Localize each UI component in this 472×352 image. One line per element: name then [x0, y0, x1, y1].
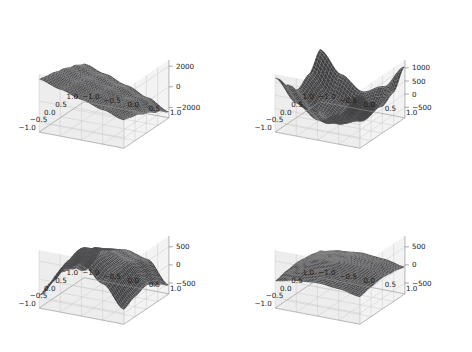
y-tick-label: 0.0 — [364, 276, 376, 285]
z-tick-label: 0 — [176, 260, 181, 269]
x-tick-label: 1.0 — [67, 92, 79, 101]
y-tick-label: −1.0 — [82, 268, 100, 277]
z-tick-label: −500 — [176, 279, 196, 288]
z-tick-label: −2000 — [176, 103, 201, 112]
subplot-bottom-right-svg: −1.0−0.50.00.51.0−1.0−0.50.00.51.05000−5… — [236, 176, 472, 352]
z-tick-label: 2000 — [176, 62, 195, 71]
y-tick-label: −0.5 — [103, 96, 120, 105]
x-tick-label: 0.5 — [55, 100, 66, 109]
x-tick-label: 1.0 — [303, 92, 315, 101]
y-tick-label: −0.5 — [339, 96, 356, 105]
z-tick-label: 0 — [176, 82, 181, 91]
x-tick-label: 1.0 — [67, 268, 79, 277]
x-tick-label: 0.0 — [280, 108, 292, 117]
y-tick-label: 0.0 — [364, 100, 376, 109]
x-tick-label: 0.0 — [44, 108, 56, 117]
subplot-bottom-left: −1.0−0.50.00.51.0−1.0−0.50.00.51.05000−5… — [0, 176, 236, 352]
y-tick-label: −1.0 — [318, 268, 336, 277]
x-tick-label: 0.5 — [291, 276, 302, 285]
y-tick-label: −0.5 — [339, 272, 356, 281]
y-tick-label: 0.5 — [385, 280, 396, 289]
subplot-top-right-svg: −1.0−0.50.00.51.0−1.0−0.50.00.51.0100050… — [236, 0, 472, 176]
z-tick-label: 1000 — [412, 63, 431, 72]
y-tick-label: −1.0 — [318, 92, 336, 101]
x-tick-label: 1.0 — [303, 268, 315, 277]
y-tick-label: −0.5 — [103, 272, 120, 281]
subplot-top-left-svg: −1.0−0.50.00.51.0−1.0−0.50.00.51.020000−… — [0, 0, 236, 176]
y-tick-label: 0.0 — [128, 276, 140, 285]
y-tick-label: 0.5 — [385, 104, 396, 113]
z-tick-label: 500 — [412, 242, 426, 251]
z-tick-label: 0 — [412, 260, 417, 269]
subplot-top-left: −1.0−0.50.00.51.0−1.0−0.50.00.51.020000−… — [0, 0, 236, 176]
z-tick-label: 0 — [412, 90, 417, 99]
figure-canvas: −1.0−0.50.00.51.0−1.0−0.50.00.51.020000−… — [0, 0, 472, 352]
y-tick-label: 0.5 — [149, 280, 160, 289]
z-tick-label: 500 — [176, 242, 190, 251]
y-tick-label: 0.0 — [128, 100, 140, 109]
x-tick-label: 0.0 — [280, 284, 292, 293]
x-tick-label: 0.0 — [44, 284, 56, 293]
z-tick-label: −500 — [412, 279, 432, 288]
y-tick-label: −1.0 — [82, 92, 100, 101]
x-tick-label: 0.5 — [55, 276, 66, 285]
subplot-bottom-left-svg: −1.0−0.50.00.51.0−1.0−0.50.00.51.05000−5… — [0, 176, 236, 352]
x-tick-label: 0.5 — [291, 100, 302, 109]
subplot-top-right: −1.0−0.50.00.51.0−1.0−0.50.00.51.0100050… — [236, 0, 472, 176]
y-tick-label: 0.5 — [149, 104, 160, 113]
subplot-bottom-right: −1.0−0.50.00.51.0−1.0−0.50.00.51.05000−5… — [236, 176, 472, 352]
z-tick-label: 500 — [412, 77, 426, 86]
z-tick-label: −500 — [412, 103, 432, 112]
